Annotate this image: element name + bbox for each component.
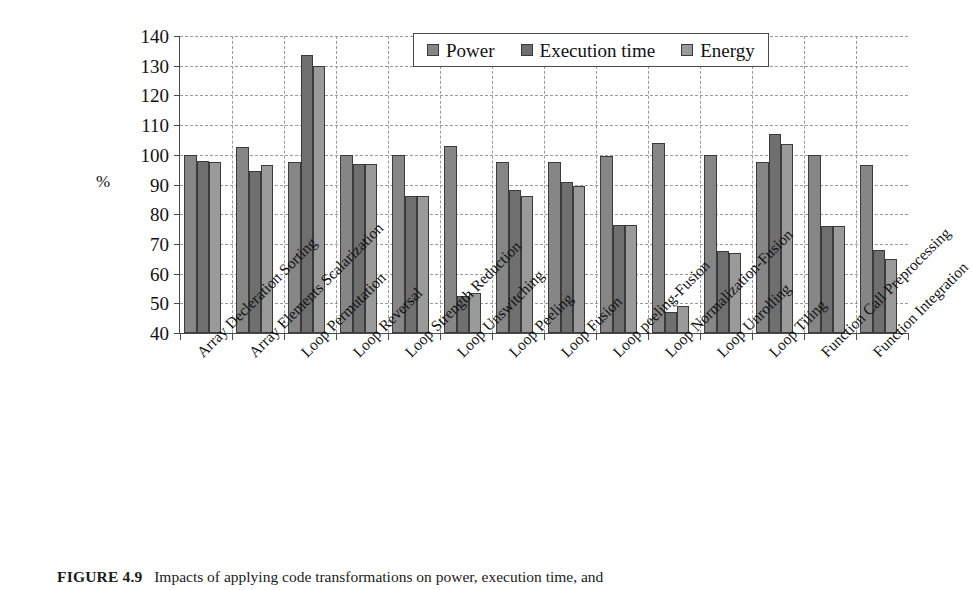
bar <box>625 225 637 333</box>
chart-legend: PowerExecution timeEnergy <box>413 33 769 67</box>
y-tick-label: 50 <box>121 294 169 313</box>
y-tick-label: 90 <box>121 176 169 195</box>
gridline <box>700 36 701 333</box>
gridline <box>336 36 337 333</box>
y-tick-mark <box>174 274 180 275</box>
bar <box>417 196 429 333</box>
caption-text: Impacts of applying code transformations… <box>154 568 603 585</box>
y-tick-mark <box>174 244 180 245</box>
legend-swatch-icon <box>681 44 693 56</box>
y-axis-title: % <box>96 172 110 192</box>
bar <box>821 226 833 333</box>
gridline <box>232 36 233 333</box>
y-tick-mark <box>174 185 180 186</box>
y-tick-mark <box>174 214 180 215</box>
gridline <box>856 36 857 333</box>
y-tick-label: 120 <box>121 86 169 105</box>
y-tick-label: 130 <box>121 57 169 76</box>
legend-item[interactable]: Energy <box>681 41 755 60</box>
gridline <box>544 36 545 333</box>
plot-area <box>179 36 908 334</box>
y-tick-label: 80 <box>121 205 169 224</box>
y-tick-label: 70 <box>121 235 169 254</box>
legend-swatch-icon <box>521 44 533 56</box>
bar <box>197 161 209 333</box>
gridline <box>388 36 389 333</box>
y-tick-label: 140 <box>121 27 169 46</box>
gridline <box>440 36 441 333</box>
y-tick-mark <box>174 155 180 156</box>
legend-swatch-icon <box>427 44 439 56</box>
legend-item[interactable]: Execution time <box>521 41 656 60</box>
y-tick-label: 100 <box>121 146 169 165</box>
gridline <box>752 36 753 333</box>
caption-spacer <box>143 568 155 585</box>
gridline <box>492 36 493 333</box>
legend-label: Execution time <box>540 41 656 60</box>
y-tick-mark <box>174 95 180 96</box>
gridline <box>596 36 597 333</box>
bar <box>613 225 625 333</box>
bar <box>521 196 533 333</box>
gridline <box>648 36 649 333</box>
y-tick-mark <box>174 36 180 37</box>
legend-label: Power <box>446 41 495 60</box>
bar <box>573 186 585 333</box>
legend-item[interactable]: Power <box>427 41 495 60</box>
gridline <box>284 36 285 333</box>
figure-number: FIGURE 4.9 <box>57 568 143 585</box>
gridline <box>804 36 805 333</box>
y-tick-mark <box>174 66 180 67</box>
legend-label: Energy <box>700 41 755 60</box>
bar <box>184 155 196 333</box>
y-tick-label: 110 <box>121 116 169 135</box>
x-tick-mark <box>180 333 181 340</box>
bar <box>261 165 273 333</box>
y-tick-mark <box>174 303 180 304</box>
y-tick-label: 40 <box>121 324 169 343</box>
y-tick-label: 60 <box>121 265 169 284</box>
y-tick-mark <box>174 125 180 126</box>
figure-caption: FIGURE 4.9 Impacts of applying code tran… <box>57 567 917 590</box>
bar <box>209 162 221 333</box>
bar <box>833 226 845 333</box>
